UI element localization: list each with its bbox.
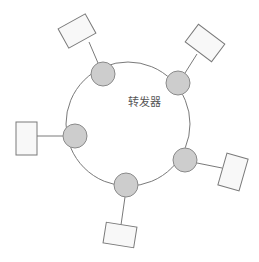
link-top-right <box>185 54 197 73</box>
station-top-left <box>58 14 96 48</box>
repeater-label: 转发器 <box>128 93 161 109</box>
link-bottom-right <box>197 163 222 168</box>
repeater-top-left <box>91 62 115 86</box>
repeater-bottom <box>114 173 138 197</box>
link-top-left <box>89 42 98 63</box>
repeater-left <box>63 124 87 148</box>
link-bottom <box>121 197 125 225</box>
ring-topology-diagram <box>0 0 259 262</box>
station-bottom <box>103 222 137 248</box>
repeater-top-right <box>166 71 190 95</box>
station-left <box>16 122 37 155</box>
station-bottom-right <box>218 153 248 191</box>
station-top-right <box>185 24 225 61</box>
repeater-bottom-right <box>173 148 197 172</box>
